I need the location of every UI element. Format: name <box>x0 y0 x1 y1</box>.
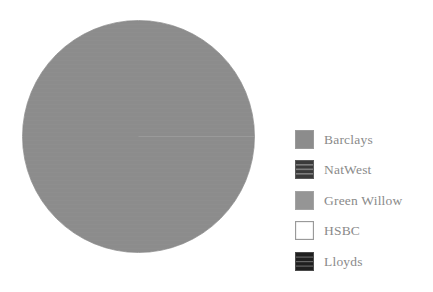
legend-label-lloyds: Lloyds <box>324 255 363 269</box>
legend: Barclays NatWest Green Willow <box>295 124 430 277</box>
legend-item-barclays[interactable]: Barclays <box>295 124 430 155</box>
legend-swatch-hsbc-icon <box>295 221 314 240</box>
legend-swatch-green-willow-icon <box>295 191 314 210</box>
legend-swatch-lloyds-icon <box>295 252 314 271</box>
legend-label-barclays: Barclays <box>324 133 373 147</box>
pie-chart-canvas <box>22 20 255 253</box>
legend-swatch-barclays-icon <box>295 130 314 149</box>
chart-figure: Barclays NatWest Green Willow <box>0 0 433 292</box>
pie-chart <box>22 20 255 253</box>
legend-item-lloyds[interactable]: Lloyds <box>295 246 430 277</box>
legend-item-green-willow[interactable]: Green Willow <box>295 185 430 216</box>
legend-label-hsbc: HSBC <box>324 224 360 238</box>
legend-item-natwest[interactable]: NatWest <box>295 155 430 186</box>
legend-label-natwest: NatWest <box>324 163 372 177</box>
legend-swatch-natwest-icon <box>295 160 314 179</box>
legend-item-hsbc[interactable]: HSBC <box>295 216 430 247</box>
legend-label-green-willow: Green Willow <box>324 194 402 208</box>
